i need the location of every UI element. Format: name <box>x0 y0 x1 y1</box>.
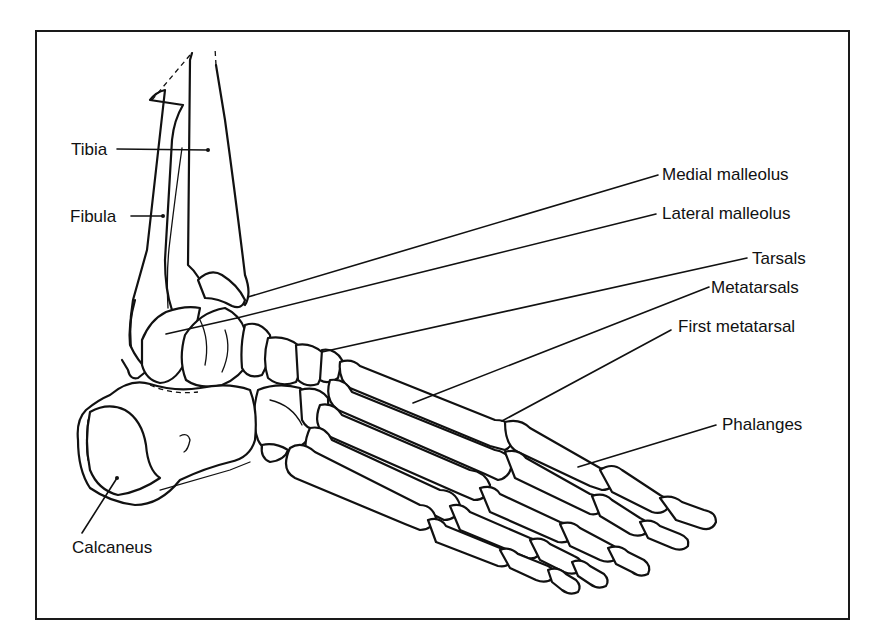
calcaneus-bone <box>78 382 256 505</box>
tibia-bone <box>167 48 248 308</box>
label-tarsals: Tarsals <box>752 250 806 267</box>
metatarsal-bones <box>286 361 515 530</box>
label-tibia: Tibia <box>71 141 107 158</box>
label-first-metatarsal: First metatarsal <box>678 318 795 335</box>
label-calcaneus: Calcaneus <box>72 539 152 556</box>
label-metatarsals: Metatarsals <box>711 279 799 296</box>
label-phalanges: Phalanges <box>722 416 802 433</box>
label-fibula: Fibula <box>70 208 116 225</box>
label-lateral-malleolus: Lateral malleolus <box>662 205 791 222</box>
label-medial-malleolus: Medial malleolus <box>662 166 789 183</box>
